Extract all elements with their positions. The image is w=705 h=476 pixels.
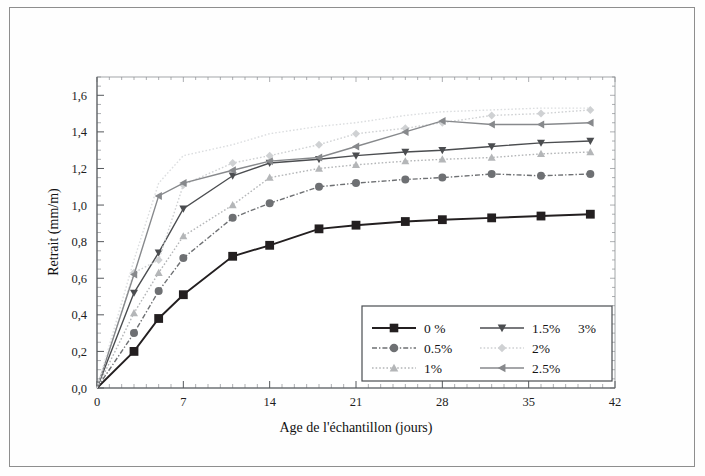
- data-point-marker-circle: [130, 329, 138, 337]
- data-point-marker-square: [228, 252, 237, 261]
- y-tick-label: 0,6: [71, 272, 87, 286]
- legend-label: 0.5%: [424, 341, 452, 356]
- x-tick-label: 21: [350, 395, 363, 409]
- legend-label: 1%: [424, 361, 442, 376]
- y-tick-label: 0,0: [71, 382, 87, 396]
- data-point-marker-square: [154, 314, 163, 323]
- x-tick-label: 0: [94, 395, 100, 409]
- retrait-line-chart: 071421283542 0,00,20,40,60,81,01,21,41,6…: [0, 0, 705, 476]
- legend-label: 3%: [578, 321, 596, 336]
- y-tick-label: 1,6: [71, 89, 87, 103]
- legend-label: 2.5%: [532, 361, 560, 376]
- data-point-marker-circle: [229, 214, 237, 222]
- y-tick-label: 1,2: [71, 162, 87, 176]
- data-point-marker-square: [352, 221, 361, 230]
- data-point-marker-circle: [315, 183, 323, 191]
- x-tick-label: 7: [180, 395, 186, 409]
- x-tick-label: 28: [436, 395, 449, 409]
- x-tick-label: 35: [522, 395, 535, 409]
- x-axis-tick-labels: 071421283542: [94, 395, 621, 409]
- data-point-marker-circle: [488, 170, 496, 178]
- data-point-marker-square: [130, 347, 139, 356]
- data-point-marker-square: [179, 290, 188, 299]
- data-point-marker-circle: [266, 199, 274, 207]
- legend-label: 2%: [532, 341, 550, 356]
- data-point-marker-circle: [179, 254, 187, 262]
- y-axis-title: Retrait (mm/m): [46, 188, 62, 276]
- x-tick-label: 14: [263, 395, 276, 409]
- figure-container: 071421283542 0,00,20,40,60,81,01,21,41,6…: [0, 0, 705, 476]
- x-tick-label: 42: [609, 395, 622, 409]
- y-tick-label: 0,8: [71, 235, 87, 249]
- data-point-marker-square: [438, 215, 447, 224]
- data-point-marker-circle: [401, 175, 409, 183]
- data-point-marker-square: [487, 213, 496, 222]
- legend-marker-square: [390, 324, 399, 333]
- legend-item-3[interactable]: 3%: [578, 321, 596, 336]
- data-point-marker-square: [537, 212, 546, 221]
- data-point-marker-circle: [438, 174, 446, 182]
- data-point-marker-circle: [586, 170, 594, 178]
- data-point-marker-square: [315, 224, 324, 233]
- y-tick-label: 0,4: [71, 308, 87, 322]
- y-tick-label: 0,2: [71, 345, 87, 359]
- x-axis-title: Age de l'échantillon (jours): [280, 420, 433, 436]
- data-point-marker-circle: [352, 179, 360, 187]
- legend-background: [362, 306, 612, 381]
- legend-label: 0 %: [424, 321, 445, 336]
- y-tick-label: 1,0: [71, 199, 87, 213]
- legend-marker-circle: [390, 344, 399, 353]
- data-point-marker-square: [265, 241, 274, 250]
- y-axis-tick-labels: 0,00,20,40,60,81,01,21,41,6: [71, 89, 87, 396]
- y-tick-label: 1,4: [71, 125, 87, 139]
- data-point-marker-circle: [537, 172, 545, 180]
- data-point-marker-circle: [155, 287, 163, 295]
- legend-label: 1.5%: [532, 321, 560, 336]
- data-point-marker-square: [401, 217, 410, 226]
- data-point-marker-square: [586, 210, 595, 219]
- chart-legend[interactable]: 0 %0.5%1%1.5%2%2.5%3%: [362, 306, 612, 381]
